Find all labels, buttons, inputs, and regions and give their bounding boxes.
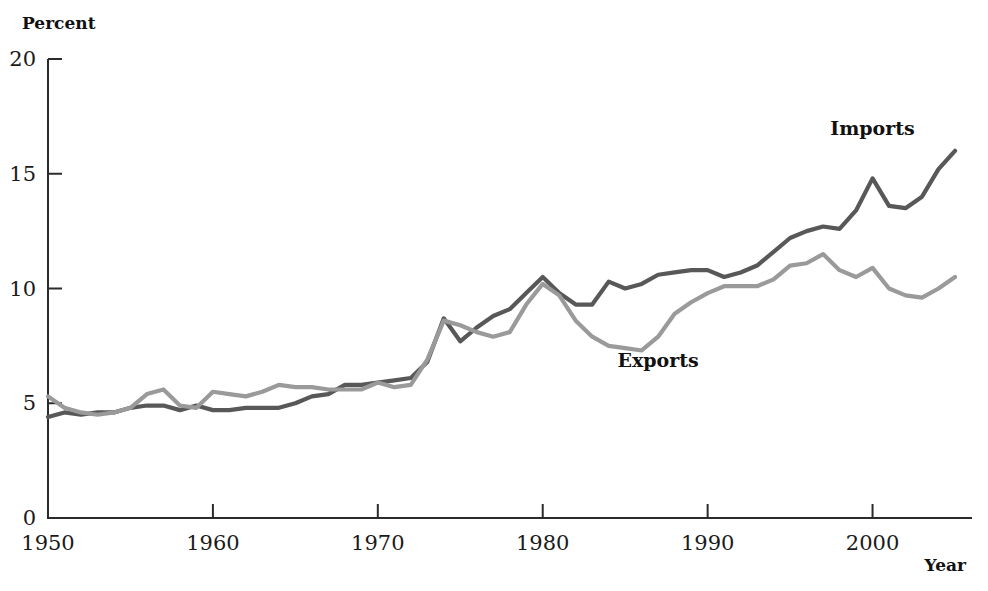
series-line-exports [48,254,955,415]
x-axis-ticks [213,504,873,518]
y-axis-title: Percent [22,13,96,33]
series-line-imports [48,151,955,417]
percent-of-gdp-line-chart: Percent 05101520 19501960197019801990200… [0,0,988,591]
x-tick-label-1990: 1990 [681,531,734,555]
x-tick-label-1970: 1970 [351,531,404,555]
y-tick-label-5: 5 [23,391,36,415]
y-axis-ticks [48,59,62,518]
chart-container: Percent 05101520 19501960197019801990200… [0,0,988,591]
series-label-exports: Exports [618,349,699,371]
series-label-imports: Imports [830,117,914,139]
x-tick-label-1980: 1980 [516,531,569,555]
x-tick-label-1950: 1950 [21,531,74,555]
x-tick-label-2000: 2000 [846,531,899,555]
y-axis-tick-labels: 05101520 [9,47,36,530]
y-tick-label-0: 0 [23,506,36,530]
x-tick-label-1960: 1960 [186,531,239,555]
series-lines [48,151,955,417]
y-tick-label-20: 20 [9,47,36,71]
x-axis-tick-labels: 195019601970198019902000 [21,531,899,555]
x-axis-title: Year [924,555,967,575]
y-tick-label-10: 10 [9,277,36,301]
y-tick-label-15: 15 [9,162,36,186]
